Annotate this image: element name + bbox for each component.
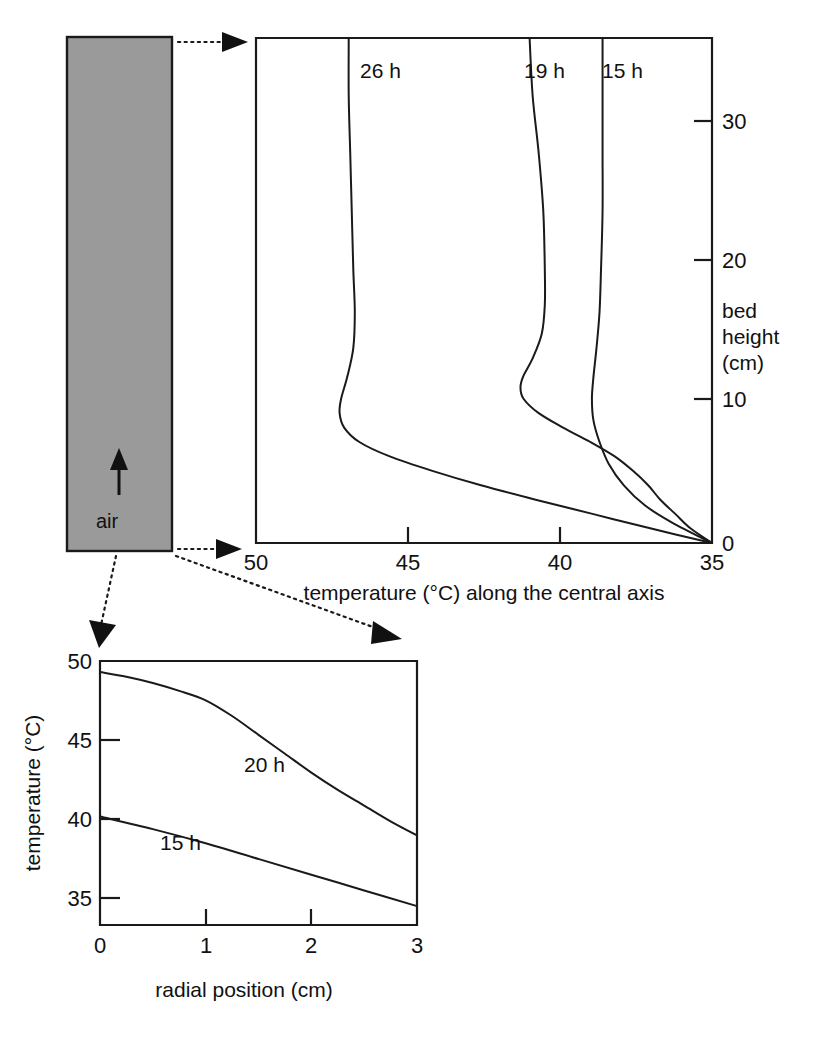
connector-bed-bottomleft-to-radial <box>89 556 116 648</box>
figure-canvas: air <box>0 0 834 1057</box>
radial-ytick-35: 35 <box>68 886 92 911</box>
curve-26-h <box>339 38 712 543</box>
radial-curve-label-20h: 20 h <box>244 753 285 776</box>
axial-ylabel-line-3: (cm) <box>722 351 764 374</box>
axial-curves <box>339 38 712 543</box>
axial-ylabel-line-2: height <box>722 325 779 348</box>
axial-xtick-35: 35 <box>700 550 724 575</box>
axial-ytick-0: 0 <box>722 531 734 556</box>
connector-bed-top-to-axial <box>178 32 248 52</box>
axial-ytick-30: 30 <box>722 109 746 134</box>
axial-plot-frame <box>256 38 712 543</box>
axial-profile-chart: 50 45 40 35 0 10 20 30 bed height (cm) t… <box>244 38 780 604</box>
radial-y-ticklabels: 35 40 45 50 <box>68 649 92 911</box>
connector-bed-bottom-to-axial <box>178 539 242 559</box>
axial-curve-labels: 26 h 19 h 15 h <box>360 59 643 82</box>
curve-15-h <box>100 817 417 907</box>
radial-ytick-45: 45 <box>68 728 92 753</box>
axial-ytick-10: 10 <box>722 387 746 412</box>
radial-y-axis-title: temperature (°C) <box>21 715 44 872</box>
radial-xtick-2: 2 <box>305 933 317 958</box>
axial-y-axis-title: bed height (cm) <box>722 299 779 374</box>
air-label: air <box>96 510 119 532</box>
curve-15-h <box>592 38 712 543</box>
bed-column-group: air <box>67 37 172 551</box>
axial-xtick-45: 45 <box>396 550 420 575</box>
radial-x-ticklabels: 0 1 2 3 <box>94 933 423 958</box>
radial-ytick-40: 40 <box>68 807 92 832</box>
axial-x-ticklabels: 50 45 40 35 <box>244 550 724 575</box>
axial-ytick-20: 20 <box>722 248 746 273</box>
radial-profile-chart: 35 40 45 50 0 1 2 3 temperature (°C) rad… <box>21 649 423 1001</box>
radial-curve-labels: 20 h 15 h <box>160 753 285 854</box>
axial-x-axis-title: temperature (°C) along the central axis <box>304 581 665 604</box>
radial-xtick-0: 0 <box>94 933 106 958</box>
axial-curve-label-19h: 19 h <box>524 59 565 82</box>
radial-curve-label-15h: 15 h <box>160 831 201 854</box>
radial-xtick-1: 1 <box>200 933 212 958</box>
axial-y-ticks <box>694 121 712 399</box>
radial-curves <box>100 672 417 906</box>
axial-xtick-50: 50 <box>244 550 268 575</box>
radial-x-ticks <box>206 909 311 925</box>
figure-root: air <box>0 0 834 1057</box>
radial-xtick-3: 3 <box>411 933 423 958</box>
axial-ylabel-line-1: bed <box>722 299 757 322</box>
axial-xtick-40: 40 <box>548 550 572 575</box>
axial-x-ticks <box>408 527 560 543</box>
radial-plot-frame <box>100 661 417 925</box>
curve-19-h <box>520 38 712 543</box>
radial-x-axis-title: radial position (cm) <box>155 978 332 1001</box>
axial-curve-label-26h: 26 h <box>360 59 401 82</box>
axial-curve-label-15h: 15 h <box>602 59 643 82</box>
radial-ytick-50: 50 <box>68 649 92 674</box>
